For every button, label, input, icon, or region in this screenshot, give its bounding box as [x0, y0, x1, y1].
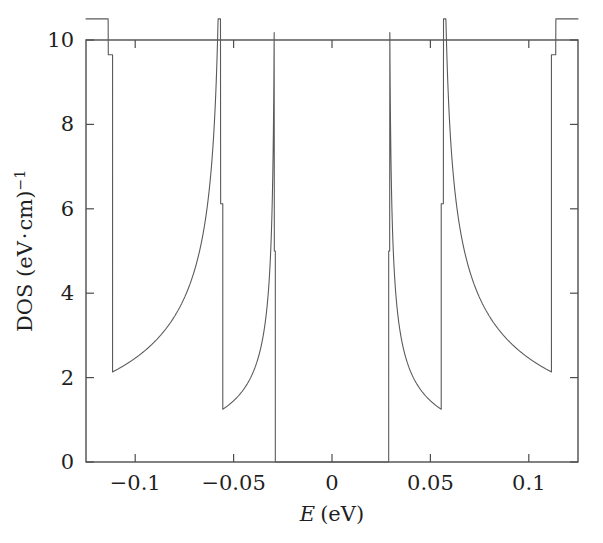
- y-axis-title-exponent: −1: [12, 170, 28, 191]
- y-tick-label: 10: [47, 28, 74, 52]
- y-axis-title-cm: cm): [13, 191, 37, 231]
- x-tick-label: 0: [325, 471, 338, 495]
- y-tick-label: 0: [61, 450, 74, 474]
- y-tick-label: 6: [61, 197, 74, 221]
- x-axis-title: E(eV): [299, 502, 364, 526]
- y-axis-title-main: DOS (eV: [13, 240, 37, 332]
- y-axis-title: DOS (eV·cm)−1: [12, 170, 37, 332]
- y-tick-label: 2: [61, 366, 74, 390]
- y-axis-title-middot: ·: [13, 232, 37, 239]
- x-tick-label: −0.1: [110, 471, 161, 495]
- x-tick-label: −0.05: [201, 471, 265, 495]
- x-axis-title-symbol: E: [299, 502, 315, 526]
- x-tick-label: 0.05: [407, 471, 454, 495]
- chart-canvas: −0.1−0.0500.050.1 0246810 E(eV) DOS (eV·…: [0, 0, 603, 543]
- dos-chart-figure: −0.1−0.0500.050.1 0246810 E(eV) DOS (eV·…: [0, 0, 603, 543]
- y-tick-label: 4: [61, 281, 74, 305]
- y-tick-label: 8: [61, 112, 74, 136]
- x-axis-title-units: (eV): [320, 502, 364, 526]
- x-tick-label: 0.1: [512, 471, 545, 495]
